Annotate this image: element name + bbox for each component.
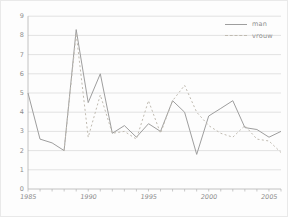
y-tick-label-1: 1 <box>20 166 24 174</box>
y-tick-label-9: 9 <box>20 12 24 20</box>
x-tick-label-2000: 2000 <box>200 193 218 201</box>
y-tick-label-7: 7 <box>20 51 24 59</box>
chart-legend: man vrouw <box>225 21 274 39</box>
man-line-swatch-icon <box>225 24 247 25</box>
y-tick-label-5: 5 <box>20 89 24 97</box>
x-tick-label-1990: 1990 <box>80 193 98 201</box>
vrouw-line-swatch-icon <box>225 35 247 36</box>
y-tick-label-3: 3 <box>20 127 24 135</box>
legend-item-man: man <box>225 21 274 28</box>
y-tick-label-6: 6 <box>20 70 24 78</box>
y-tick-label-0: 0 <box>20 185 24 193</box>
y-tick-label-8: 8 <box>20 31 24 39</box>
y-tick-label-2: 2 <box>20 147 24 155</box>
legend-item-vrouw: vrouw <box>225 33 274 40</box>
legend-label-man: man <box>252 21 274 28</box>
x-tick-label-1985: 1985 <box>19 193 37 201</box>
legend-label-vrouw: vrouw <box>252 33 274 40</box>
x-tick-label-1995: 1995 <box>140 193 158 201</box>
chart-panel: 012345678919851990199520002005 man vrouw <box>0 0 288 217</box>
x-tick-label-2005: 2005 <box>260 193 278 201</box>
y-tick-label-4: 4 <box>20 108 24 116</box>
